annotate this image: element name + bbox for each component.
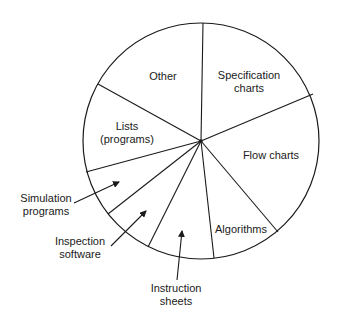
slice-label-instruction: Instruction [151,282,202,294]
slice-label-simulation-line2: programs [23,205,70,217]
slice-label-specification-line2: charts [234,82,264,94]
slice-label-lists: Lists [116,120,139,132]
slice-label-other: Other [149,70,177,82]
slice-label-simulation: Simulation [20,192,71,204]
slice-label-instruction-line2: sheets [160,295,193,307]
slice-label-algorithms: Algorithms [215,223,267,235]
pie-center-dot [199,139,203,143]
slice-label-inspection-line2: software [59,248,101,260]
slice-label-inspection: Inspection [55,235,105,247]
pie-chart: Specification charts Flow charts Algorit… [0,0,340,316]
slice-label-flow-charts: Flow charts [243,149,300,161]
slice-label-lists-line2: (programs) [100,133,154,145]
slice-label-specification: Specification [218,69,280,81]
